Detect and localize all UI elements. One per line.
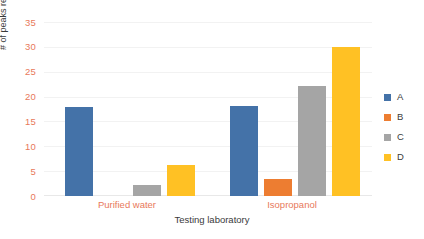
bar-purified-water-C[interactable] [133,185,161,196]
bar-purified-water-D[interactable] [167,165,195,196]
legend-item-B[interactable]: B [384,112,404,122]
y-tick-label-35: 35 [12,18,36,28]
bar-group-isopropanol [227,22,363,196]
y-tick-label-25: 25 [12,67,36,77]
legend-swatch-B [384,114,391,121]
bar-slot-isopropanol-C [295,22,329,196]
bar-slot-isopropanol-D [329,22,363,196]
bar-purified-water-A[interactable] [65,107,93,196]
bar-isopropanol-A[interactable] [230,106,258,196]
plot-area [44,22,372,196]
legend-item-C[interactable]: C [384,132,404,142]
y-tick-label-15: 15 [12,117,36,127]
bar-isopropanol-C[interactable] [298,86,326,196]
y-tick-label-10: 10 [12,142,36,152]
bar-chart: # of peaks reported 35 30 25 20 15 10 5 … [0,0,424,239]
y-tick-label-5: 5 [12,167,36,177]
legend-label-B: B [397,112,403,122]
bar-slot-purified-water-A [62,22,96,196]
bar-slot-purified-water-B [96,22,130,196]
bar-slot-purified-water-D [164,22,198,196]
x-axis-title: Testing laboratory [0,215,424,225]
legend-label-C: C [397,132,404,142]
bar-isopropanol-B[interactable] [264,179,292,196]
y-axis-title: # of peaks reported [0,0,8,50]
legend-item-A[interactable]: A [384,92,404,102]
y-tick-label-20: 20 [12,92,36,102]
legend: A B C D [384,92,404,162]
bar-slot-isopropanol-B [261,22,295,196]
legend-label-D: D [397,152,404,162]
legend-swatch-D [384,154,391,161]
bar-isopropanol-D[interactable] [332,47,360,196]
bar-slot-isopropanol-A [227,22,261,196]
x-category-label-purified-water: Purified water [62,200,192,210]
legend-item-D[interactable]: D [384,152,404,162]
bar-group-purified-water [62,22,198,196]
legend-swatch-A [384,94,391,101]
y-tick-label-0: 0 [12,192,36,202]
y-tick-label-30: 30 [12,42,36,52]
bar-slot-purified-water-C [130,22,164,196]
legend-label-A: A [397,92,403,102]
x-category-label-isopropanol: Isopropanol [227,200,357,210]
legend-swatch-C [384,134,391,141]
